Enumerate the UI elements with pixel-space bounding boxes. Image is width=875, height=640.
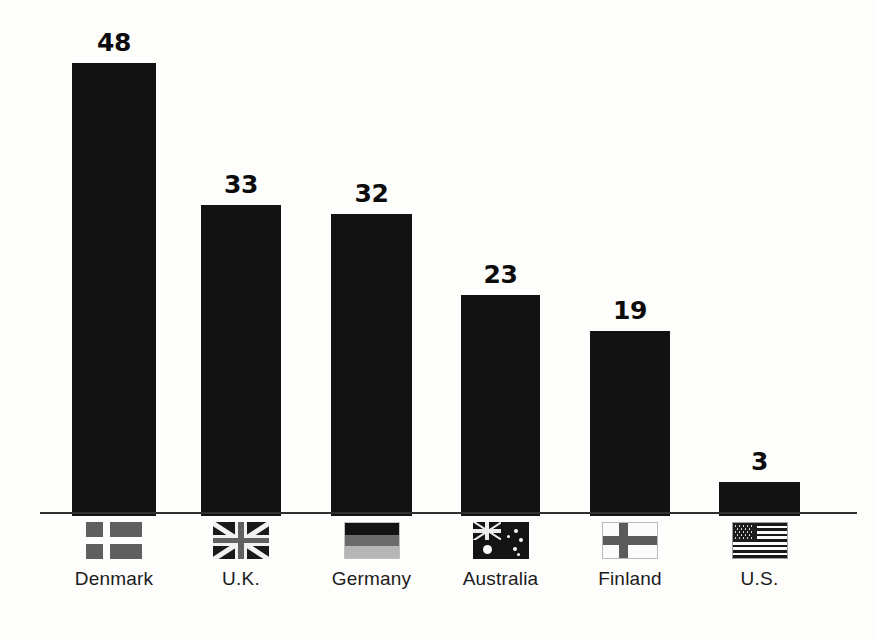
plot-area: 48 33 32 23 19 3 [0,0,875,516]
flag-united-kingdom-icon [213,522,269,559]
category-australia: Australia [461,522,540,588]
bar-value-label: 3 [751,449,768,474]
category-finland: Finland [590,522,670,588]
category-axis: Denmark U.K. Germany [0,522,875,612]
category-uk: U.K. [201,522,281,588]
category-label: Australia [461,569,540,588]
flag-australia-icon [473,522,529,559]
bar-us[interactable] [719,482,800,516]
category-label: U.S. [719,569,800,588]
bar-finland[interactable] [590,331,670,516]
bar-australia[interactable] [461,295,540,516]
bar-group-us: 3 [719,482,800,516]
bar-value-label: 33 [224,172,258,197]
bar-value-label: 19 [613,298,647,323]
category-label: U.K. [201,569,281,588]
bar-group-denmark: 48 [72,63,156,516]
bar-denmark[interactable] [72,63,156,516]
bar-value-label: 48 [97,30,131,55]
bar-group-australia: 23 [461,295,540,516]
x-axis-line [40,512,857,514]
category-label: Germany [331,569,412,588]
bar-value-label: 32 [355,181,389,206]
bar-germany[interactable] [331,214,412,516]
flag-united-states-icon [732,522,788,559]
bar-group-finland: 19 [590,331,670,516]
flag-finland-icon [602,522,658,559]
bar-group-uk: 33 [201,205,281,516]
flag-germany-icon [344,522,400,559]
bar-group-germany: 32 [331,214,412,516]
category-germany: Germany [331,522,412,588]
category-label: Finland [590,569,670,588]
bar-uk[interactable] [201,205,281,516]
bar-value-label: 23 [484,262,518,287]
category-denmark: Denmark [72,522,156,588]
category-us: U.S. [719,522,800,588]
flag-denmark-icon [86,522,142,559]
category-label: Denmark [72,569,156,588]
bar-chart: 48 33 32 23 19 3 [0,0,875,640]
